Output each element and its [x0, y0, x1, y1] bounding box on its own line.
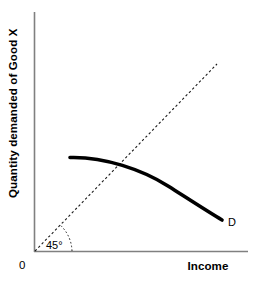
y-axis-label: Quantity demanded of Good X [6, 28, 19, 198]
economics-chart-canvas: Quantity demanded of Good X Income 0 D 4… [0, 0, 263, 282]
forty-five-degree-reference-line [35, 64, 217, 251]
demand-curve-D [70, 157, 222, 220]
chart-figure: Quantity demanded of Good X Income 0 D 4… [0, 0, 263, 282]
x-axis-label: Income [187, 259, 229, 272]
demand-curve-label: D [228, 216, 236, 228]
angle-label: 45° [46, 239, 63, 251]
origin-label: 0 [19, 259, 25, 271]
